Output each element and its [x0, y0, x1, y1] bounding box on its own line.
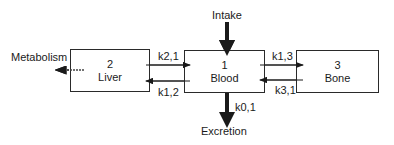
metabolism-label: Metabolism: [11, 51, 67, 63]
k01-label: k0,1: [235, 101, 256, 113]
k12-label: k1,2: [158, 86, 179, 98]
k31-label: k3,1: [275, 84, 296, 96]
k21-label: k2,1: [158, 50, 179, 62]
intake-label: Intake: [212, 9, 242, 21]
excretion-label: Excretion: [201, 125, 247, 137]
arrows-overlay: [0, 0, 394, 145]
k13-label: k1,3: [272, 50, 293, 62]
